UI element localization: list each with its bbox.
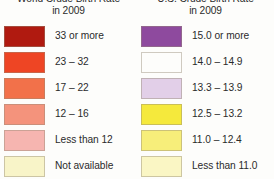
legend-row-label: 11.0 – 12.4 bbox=[192, 134, 242, 146]
legend-row: 33 or more bbox=[0, 23, 137, 49]
legend-row-label: 15.0 or more bbox=[192, 30, 249, 42]
legend-row-label: 12.5 – 13.2 bbox=[192, 108, 242, 120]
color-swatch bbox=[141, 156, 182, 177]
color-swatch bbox=[4, 78, 45, 99]
legend-row-label: Less than 11.0 bbox=[192, 160, 257, 172]
legend-column-us: U.S. Crude Birth Rate in 2009 15.0 or mo… bbox=[137, 0, 274, 179]
legend-title-world-line2: in 2009 bbox=[0, 5, 137, 17]
color-swatch bbox=[4, 104, 45, 125]
legend-row-label: 14.0 – 14.9 bbox=[192, 56, 242, 68]
legend-entries-world: 33 or more 23 – 32 17 – 22 12 – 16 Less … bbox=[0, 23, 137, 179]
color-swatch bbox=[141, 130, 182, 151]
legend-row: 17 – 22 bbox=[0, 75, 137, 101]
legend-row-label: 33 or more bbox=[55, 30, 104, 42]
legend-row-label: 17 – 22 bbox=[55, 82, 89, 94]
legend-row: 12 – 16 bbox=[0, 101, 137, 127]
legend-row: 15.0 or more bbox=[137, 23, 274, 49]
legend-title-world: World Crude Birth Rate in 2009 bbox=[0, 0, 137, 18]
legend-row: 13.3 – 13.9 bbox=[137, 75, 274, 101]
color-swatch bbox=[141, 26, 182, 47]
legend-row: Less than 11.0 bbox=[137, 153, 274, 179]
legend-row: Less than 12 bbox=[0, 127, 137, 153]
legend-title-us-line2: in 2009 bbox=[137, 5, 274, 17]
legend-row-label: 12 – 16 bbox=[55, 108, 89, 120]
color-swatch bbox=[4, 156, 45, 177]
legend-row-label: Not available bbox=[55, 160, 113, 172]
legend-row-label: 13.3 – 13.9 bbox=[192, 82, 242, 94]
legend-row: 12.5 – 13.2 bbox=[137, 101, 274, 127]
map-legend: World Crude Birth Rate in 2009 33 or mor… bbox=[0, 0, 274, 179]
color-swatch bbox=[4, 26, 45, 47]
legend-row: 23 – 32 bbox=[0, 49, 137, 75]
legend-row: 11.0 – 12.4 bbox=[137, 127, 274, 153]
legend-row: 14.0 – 14.9 bbox=[137, 49, 274, 75]
legend-row-label: Less than 12 bbox=[55, 134, 113, 146]
color-swatch bbox=[4, 52, 45, 73]
color-swatch bbox=[141, 78, 182, 99]
legend-entries-us: 15.0 or more 14.0 – 14.9 13.3 – 13.9 12.… bbox=[137, 23, 274, 179]
color-swatch bbox=[141, 52, 182, 73]
legend-title-us: U.S. Crude Birth Rate in 2009 bbox=[137, 0, 274, 18]
legend-column-world: World Crude Birth Rate in 2009 33 or mor… bbox=[0, 0, 137, 179]
color-swatch bbox=[4, 130, 45, 151]
legend-row-label: 23 – 32 bbox=[55, 56, 89, 68]
color-swatch bbox=[141, 104, 182, 125]
legend-row: Not available bbox=[0, 153, 137, 179]
